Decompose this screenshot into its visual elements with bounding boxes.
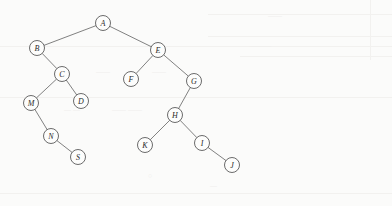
tree-edge-A-B [44, 26, 96, 46]
tree-node-G[interactable]: G [187, 74, 202, 89]
tree-node-C[interactable]: C [55, 67, 70, 82]
tree-node-F[interactable]: F [124, 72, 139, 87]
node-label-D: D [77, 97, 84, 106]
tree-edge-I-J [208, 147, 226, 160]
node-label-S: S [76, 153, 80, 162]
tree-node-N[interactable]: N [44, 129, 59, 144]
tree-node-E[interactable]: E [151, 43, 166, 58]
node-label-J: J [230, 161, 234, 170]
tree-edge-H-K [150, 120, 169, 139]
node-label-A: A [100, 19, 106, 28]
tree-edge-N-S [57, 141, 72, 153]
node-label-B: B [35, 44, 40, 53]
tree-node-J[interactable]: J [225, 158, 240, 173]
tree-edge-C-D [66, 80, 76, 95]
tree-node-I[interactable]: I [195, 136, 210, 151]
tree-node-D[interactable]: D [74, 94, 89, 109]
tree-node-S[interactable]: S [71, 150, 86, 165]
node-label-I: I [200, 139, 204, 148]
tree-edge-E-F [136, 55, 153, 73]
tree-edge-G-H [179, 88, 191, 109]
tree-node-B[interactable]: B [30, 41, 45, 56]
tree-node-A[interactable]: A [96, 16, 111, 31]
binary-tree-canvas: ABECFGMDHNKISJ [0, 0, 392, 206]
node-label-N: N [47, 132, 54, 141]
node-label-M: M [27, 99, 36, 108]
node-label-C: C [59, 70, 65, 79]
tree-edge-B-C [42, 53, 57, 68]
tree-edge-A-E [110, 26, 152, 46]
tree-edge-H-I [180, 120, 197, 137]
node-label-F: F [128, 75, 134, 84]
tree-edge-E-G [164, 55, 189, 76]
node-label-K: K [141, 141, 148, 150]
tree-diagram-page: ————— ——— ——○—————— ABECFGMDHNKISJ [0, 0, 392, 206]
tree-node-K[interactable]: K [138, 138, 153, 153]
node-label-G: G [191, 77, 197, 86]
tree-edge-C-M [36, 79, 56, 98]
tree-node-M[interactable]: M [24, 96, 39, 111]
tree-edge-M-N [35, 109, 47, 129]
node-layer: ABECFGMDHNKISJ [24, 16, 240, 173]
node-label-E: E [155, 46, 161, 55]
tree-node-H[interactable]: H [168, 108, 183, 123]
